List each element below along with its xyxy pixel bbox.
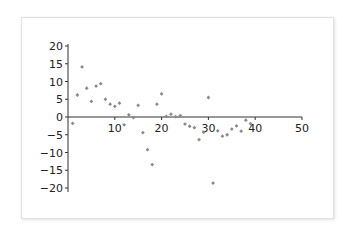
data-point [211, 181, 215, 185]
data-point [235, 124, 239, 128]
y-tick-label: −5 [47, 129, 63, 142]
data-point [197, 138, 201, 142]
data-point [85, 86, 89, 90]
data-point [146, 148, 150, 152]
data-point [71, 121, 75, 125]
data-point [75, 93, 79, 97]
data-point [118, 101, 122, 105]
data-point [225, 133, 229, 137]
data-point [221, 134, 225, 138]
y-tick-label: 0 [56, 111, 63, 124]
axes: 20151050−5−10−15−201020304050 [40, 40, 309, 195]
data-point [104, 97, 108, 101]
y-tick-label: −15 [40, 164, 63, 177]
data-point [90, 99, 94, 103]
data-point [150, 163, 154, 167]
data-point [94, 84, 98, 88]
data-point [141, 131, 145, 135]
data-point [160, 92, 164, 96]
y-tick-label: 10 [49, 76, 63, 89]
data-point [132, 116, 136, 120]
data-point [80, 65, 84, 69]
data-point [239, 129, 243, 133]
x-tick-label: 20 [155, 122, 169, 135]
data-point [169, 112, 173, 116]
x-tick-label: 10 [108, 122, 122, 135]
y-tick-label: 5 [56, 93, 63, 106]
data-point [188, 124, 192, 128]
y-tick-label: −20 [40, 182, 63, 195]
data-point [164, 114, 168, 118]
scatter-chart: 20151050−5−10−15−201020304050 [0, 0, 355, 228]
data-point [108, 102, 112, 106]
y-tick-label: 15 [49, 58, 63, 71]
data-point [113, 104, 117, 108]
data-point [183, 122, 187, 126]
data-point [136, 103, 140, 107]
data-point [207, 96, 211, 100]
data-point [122, 123, 126, 127]
data-point [99, 82, 103, 86]
x-tick-label: 50 [295, 122, 309, 135]
data-point [230, 127, 234, 131]
data-point [155, 102, 159, 106]
y-tick-label: −10 [40, 147, 63, 160]
data-point [244, 118, 248, 122]
data-point [174, 115, 178, 119]
data-point [192, 126, 196, 130]
y-tick-label: 20 [49, 40, 63, 53]
data-point [127, 113, 131, 117]
data-point [216, 129, 220, 133]
